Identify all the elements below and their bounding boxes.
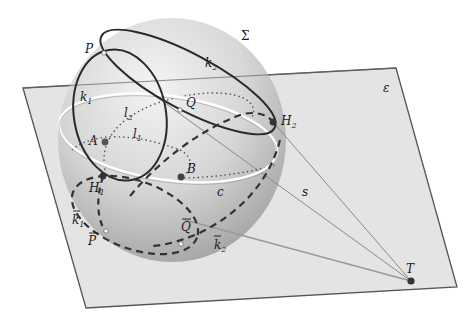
- label-s: s: [302, 185, 308, 199]
- point-A: [102, 139, 109, 146]
- label-Q: Q: [186, 96, 196, 110]
- point-T: [407, 277, 414, 284]
- point-H2: [270, 119, 277, 126]
- point-B: [178, 174, 185, 181]
- label-A: A: [88, 134, 98, 148]
- point-Q: [178, 108, 182, 112]
- label-sigma: Σ: [241, 29, 249, 43]
- point-H1: [100, 173, 107, 180]
- point-Pbar: [104, 229, 108, 233]
- point-P: [102, 51, 106, 55]
- geometry-figure: Σ ε P Q k1 k2 l2 l1 A B H1 H2 c s T k1 P…: [0, 0, 476, 322]
- label-T: T: [406, 262, 415, 276]
- label-epsilon: ε: [383, 81, 389, 95]
- label-Qbar: Q: [181, 219, 191, 234]
- label-B: B: [186, 162, 196, 176]
- svg-text:Q: Q: [181, 220, 191, 234]
- label-P: P: [84, 42, 94, 56]
- label-c: c: [217, 185, 224, 199]
- point-Qbar: [179, 242, 183, 246]
- svg-text:P: P: [87, 234, 97, 248]
